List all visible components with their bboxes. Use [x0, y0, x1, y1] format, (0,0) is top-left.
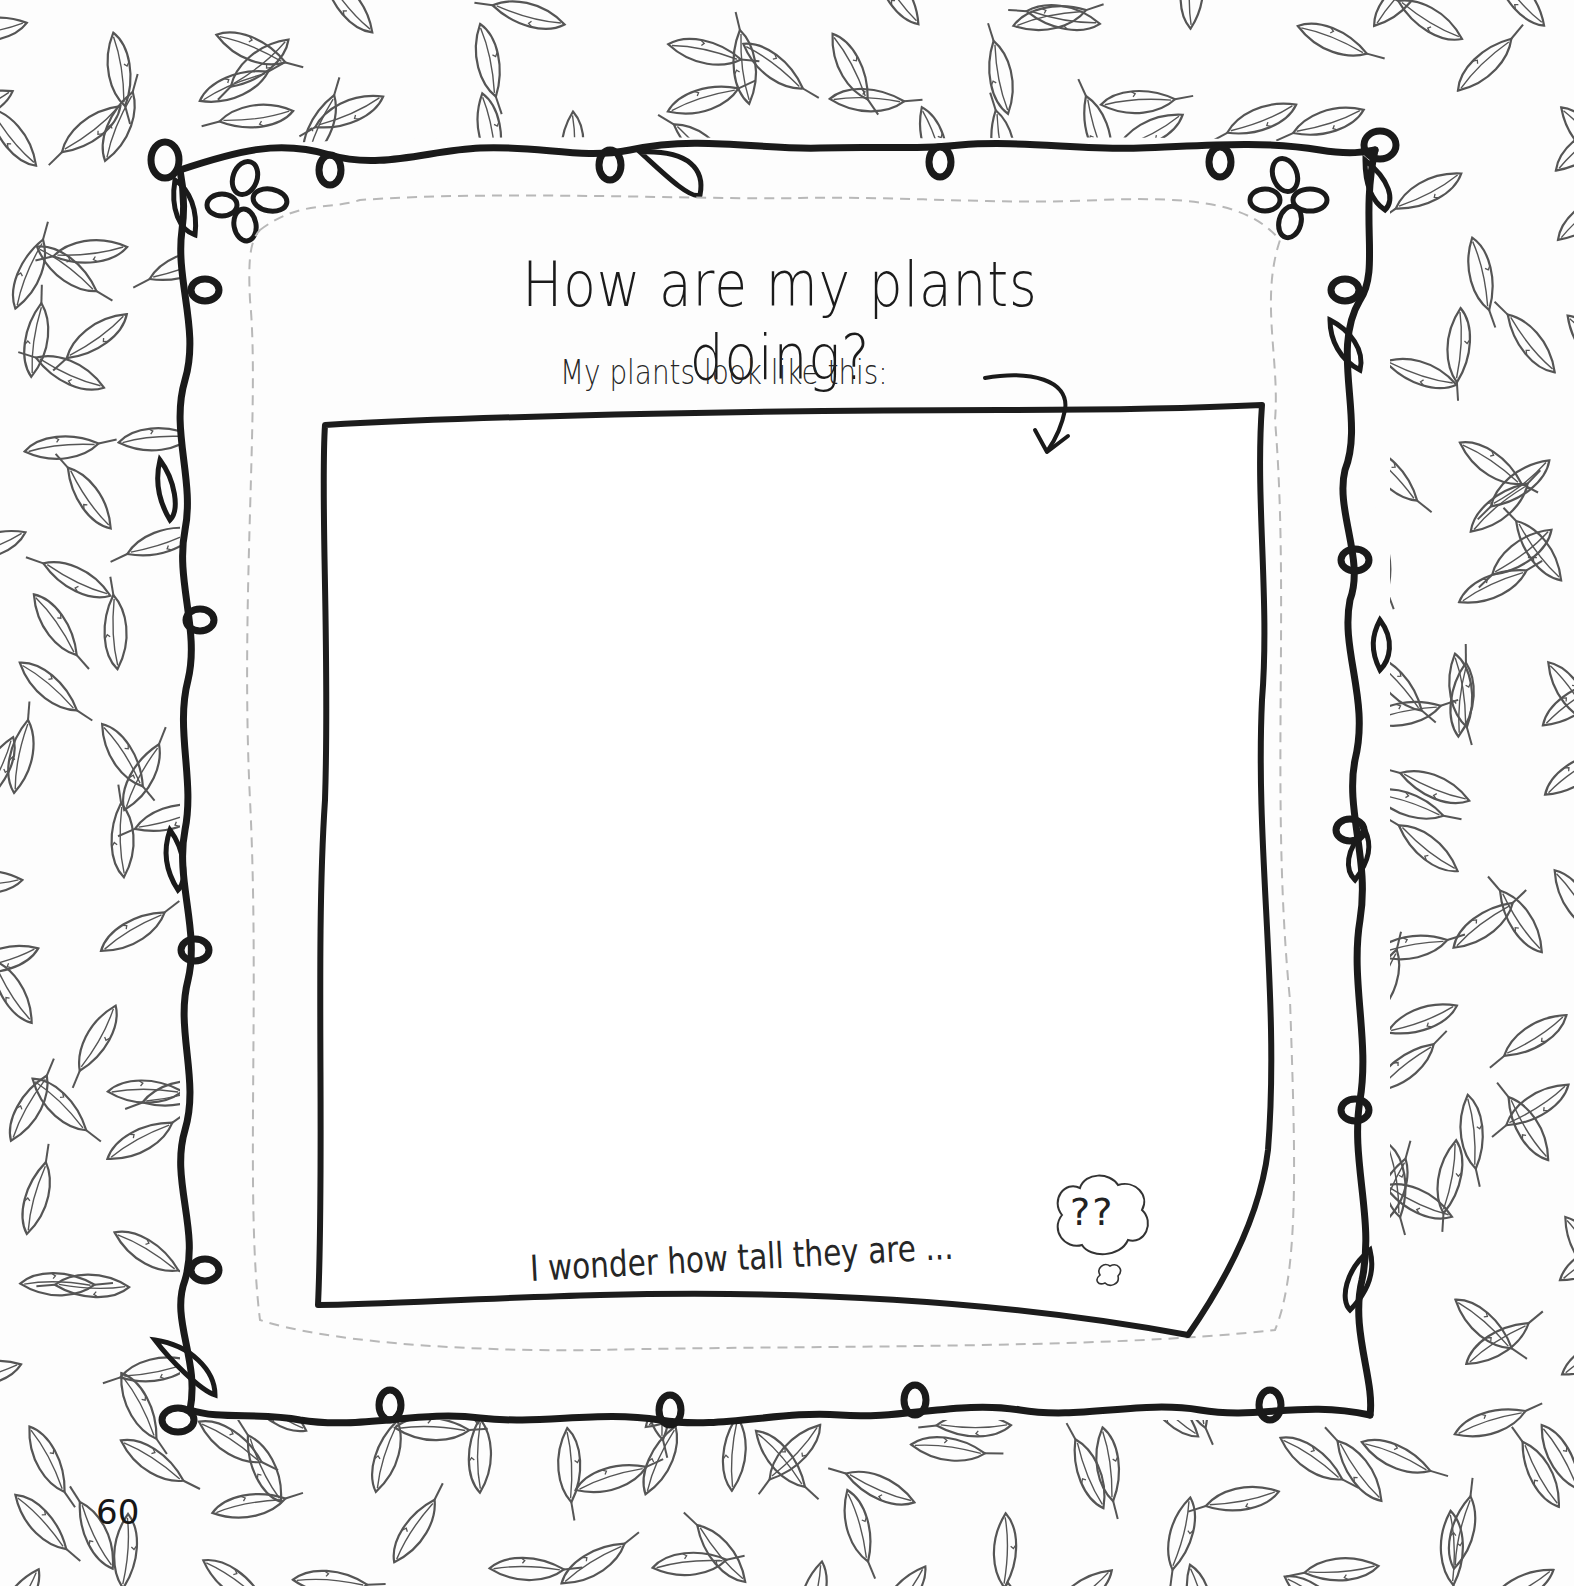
activity-page: How are my plants doing? My plants look …: [0, 0, 1574, 1586]
subtitle-label: My plants look like this:: [560, 352, 921, 392]
page-number: 60: [96, 1492, 139, 1532]
thought-bubble-text: ??: [1070, 1190, 1114, 1234]
thought-cloud-icon: [0, 0, 1574, 1586]
